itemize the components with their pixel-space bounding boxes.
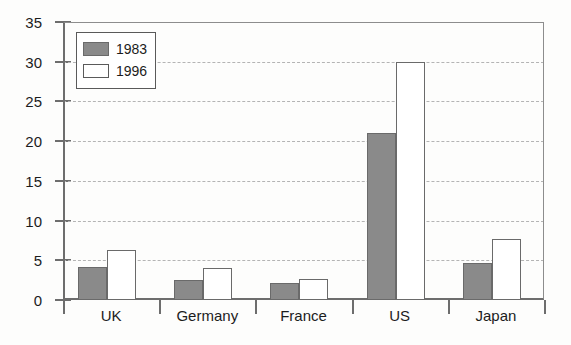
x-tick-mark xyxy=(352,300,354,314)
bar-uk-1996 xyxy=(107,250,136,300)
x-tick-mark xyxy=(544,300,546,314)
bar-us-1996 xyxy=(396,62,425,300)
x-tick-mark xyxy=(255,300,257,314)
y-tick-label: 25 xyxy=(8,93,42,110)
x-tick-label-japan: Japan xyxy=(475,307,516,324)
x-tick-label-france: France xyxy=(280,307,327,324)
x-tick-mark xyxy=(159,300,161,314)
y-tick-label: 5 xyxy=(8,252,42,269)
y-tick-label: 35 xyxy=(8,14,42,31)
bar-us-1983 xyxy=(367,133,396,300)
bar-japan-1983 xyxy=(463,263,492,300)
legend-label-1996: 1996 xyxy=(116,64,147,78)
y-tick-label: 0 xyxy=(8,292,42,309)
legend: 1983 1996 xyxy=(76,32,156,89)
y-tick-label: 20 xyxy=(8,133,42,150)
bar-japan-1996 xyxy=(492,239,521,300)
legend-item: 1996 xyxy=(83,60,149,82)
y-tick-label: 15 xyxy=(8,172,42,189)
x-tick-label-uk: UK xyxy=(101,307,122,324)
bar-france-1996 xyxy=(299,279,328,300)
bar-germany-1983 xyxy=(174,280,203,300)
x-tick-label-us: US xyxy=(389,307,410,324)
y-tick-label: 30 xyxy=(8,53,42,70)
y-tick-label: 10 xyxy=(8,212,42,229)
bar-france-1983 xyxy=(270,283,299,300)
x-tick-mark xyxy=(448,300,450,314)
bar-uk-1983 xyxy=(78,267,107,300)
legend-item: 1983 xyxy=(83,38,149,60)
x-tick-label-germany: Germany xyxy=(176,307,238,324)
chart-page: 05101520253035 UKGermanyFranceUSJapan 19… xyxy=(0,0,571,345)
x-tick-mark xyxy=(63,300,65,314)
bar-germany-1996 xyxy=(203,268,232,300)
legend-swatch-1996 xyxy=(83,64,109,78)
legend-label-1983: 1983 xyxy=(116,42,147,56)
legend-swatch-1983 xyxy=(83,42,109,56)
